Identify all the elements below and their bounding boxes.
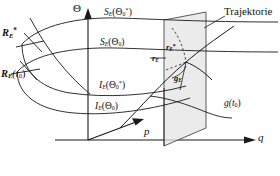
S-star-arg-open: (Θ [112,7,122,17]
gE-sub: E [178,77,182,83]
S-star-arg-close: ) [129,7,132,17]
trajectory-leader-line [204,16,225,28]
curve-S-E-theta0 [17,48,278,72]
stability-surface-curves [17,18,278,72]
label-trajektorie: Trajektorie [224,6,272,17]
curve-label-I-E-theta0: IE(Θ0) [95,102,118,112]
section-plane-face [164,12,206,146]
S-arg-close: ) [121,37,124,47]
p-axis-line [88,122,136,140]
S-arg-open: (Θ [108,37,118,47]
label-r-E-star: rE* [166,43,176,52]
theta-axis-label: Θ [73,3,81,14]
q-axis-label: q [258,132,264,143]
figure-canvas: Θ q p SE(Θ0*) SE(Θ0) IE(Θ0*) IE(Θ0) RE* … [0,0,280,176]
diagram-vector-graphics [0,0,280,176]
label-R-E-star: RE* [2,27,17,39]
r-star-sup: * [173,43,176,49]
curve-S-E-theta0-star [22,18,278,44]
separatrix-descending [30,18,90,94]
axes-group [55,14,248,140]
theta-arrowhead [84,8,92,19]
separatrix-lines [30,18,90,94]
p-axis-label: p [144,126,150,137]
R-star-sup: * [13,26,17,35]
I-arg-open: (Θ [102,101,112,111]
tick-R-E-star-b [16,41,44,47]
tick-R-E-star-a [24,33,42,52]
curve-label-S-E-theta0: SE(Θ0) [100,38,124,48]
label-R-E-t0: RE(t0) [1,69,26,80]
q-arrowhead [244,136,256,143]
I-star-arg-open: (Θ [106,80,116,90]
I-star-arg-close: ) [122,80,125,90]
R-t0-arg-close: ) [22,68,26,79]
r-sub: E [155,57,159,63]
label-g-E: gE [174,74,182,83]
R-star-main: R [2,27,9,38]
label-g-t0: g(t0) [224,99,241,109]
p-arrowhead [132,118,144,125]
curve-label-S-E-theta0-star: SE(Θ0*) [104,7,132,18]
gt0-arg-close: ) [238,98,241,108]
curve-label-I-E-theta0-star: IE(Θ0*) [99,80,125,91]
label-r-E: rE [152,54,159,63]
R-t0-main: R [1,68,8,79]
I-arg-close: ) [115,101,118,111]
poincare-section-plane [164,12,206,146]
